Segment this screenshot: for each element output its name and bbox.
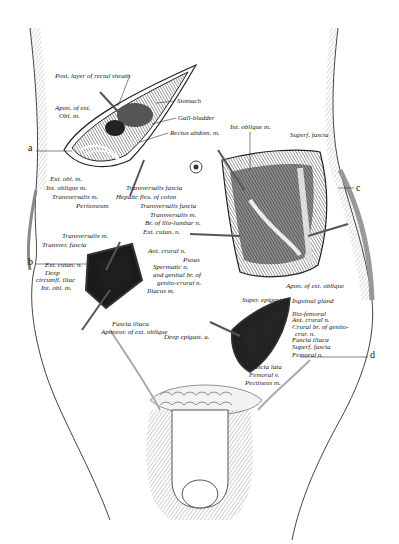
- anatomy-label: Gall-bladder: [178, 114, 215, 122]
- femoral-dissection: [232, 298, 290, 372]
- anatomy-label: Spermatic n.: [153, 263, 188, 271]
- anatomy-label: Transversalis m.: [150, 211, 196, 219]
- anatomy-label: Apon. of ext. oblique: [286, 282, 344, 290]
- anatomy-label: Superf. fascia: [292, 343, 331, 351]
- figure-letter-b: b: [28, 256, 33, 267]
- upper-dissection: [64, 65, 196, 167]
- groin-crease-left: [110, 330, 160, 410]
- right-flank-shading: [325, 28, 372, 300]
- anatomy-label: Super. epigast. v.: [242, 296, 289, 304]
- anatomy-label: Ant. crural n.: [148, 247, 186, 255]
- anatomy-label: Transversalis fascia: [140, 202, 196, 210]
- anatomy-label: Iliacus m.: [147, 287, 175, 295]
- anatomy-label: Aponeur. of ext. oblique: [101, 328, 168, 336]
- anatomy-label: Ext. obl. m.: [50, 175, 82, 183]
- anatomy-label: Femoral v.: [249, 371, 279, 379]
- anatomy-label: Rectus abdom. m.: [170, 129, 220, 137]
- anatomy-label: Femoral n.: [292, 351, 323, 359]
- anatomy-label: Fascia lata: [250, 363, 282, 371]
- anatomy-label: Ext. cutan. n.: [45, 261, 82, 269]
- anatomy-label: Obl. m.: [59, 112, 80, 120]
- anatomy-label: Int. obl. m.: [41, 284, 72, 292]
- anatomy-label: Peritoneum: [76, 202, 109, 210]
- anatomy-label: Fascia iliaca: [112, 320, 149, 328]
- anatomy-label: Transversalis m.: [62, 232, 108, 240]
- umbilicus: [190, 161, 202, 173]
- anatomy-label: Deep epigast. a.: [164, 333, 210, 341]
- anatomy-label: Hepatic flex. of colon: [116, 193, 176, 201]
- figure-letter-c: c: [356, 182, 360, 193]
- anatomy-label: Int. oblique m.: [46, 184, 87, 192]
- anatomy-label: Transver. fascia: [42, 241, 86, 249]
- anatomy-label: and genital br. of: [153, 271, 201, 279]
- genital-region: [146, 410, 253, 520]
- anatomy-label: Inguinal gland: [292, 297, 333, 305]
- anatomy-label: genito-crural n.: [157, 279, 201, 287]
- anatomy-label: Stomach: [177, 97, 201, 105]
- left-flank-shading: [30, 28, 48, 190]
- anatomy-label: Post. layer of rectal sheath: [55, 72, 130, 80]
- anatomy-label: Pectineus m.: [245, 379, 281, 387]
- anatomy-label: Superf. fascia: [290, 131, 329, 139]
- right-iliac-dissection: [222, 150, 327, 277]
- anatomy-label: Transversalis m.: [52, 193, 98, 201]
- anatomy-label: Transversalis fascia: [126, 184, 182, 192]
- anatomy-label: circumfl. iliac: [36, 276, 75, 284]
- anatomy-label: Br. of ilio-lumbar n.: [145, 219, 201, 227]
- anatomy-label: Apon. of ext.: [55, 104, 90, 112]
- figure-letter-d: d: [370, 349, 375, 360]
- anatomy-label: Ext. cutan. n.: [143, 228, 180, 236]
- figure-letter-a: a: [28, 142, 32, 153]
- anatomy-label: Int. oblique m.: [230, 123, 271, 131]
